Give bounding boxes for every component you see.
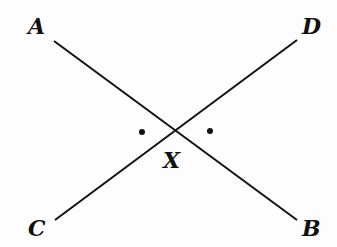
label-c: C (28, 215, 46, 241)
label-a: A (26, 13, 45, 39)
label-d: D (301, 13, 321, 39)
intersecting-lines-diagram: A D X C B (0, 0, 337, 247)
angle-mark-right (207, 128, 213, 134)
label-x: X (161, 147, 181, 173)
angle-mark-left (139, 129, 145, 135)
label-b: B (301, 215, 321, 241)
